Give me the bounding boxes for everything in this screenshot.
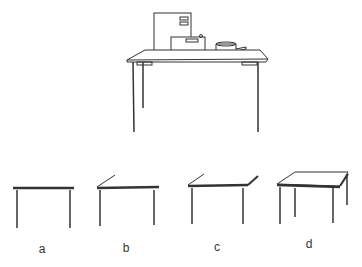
table-diagram <box>0 0 362 267</box>
variant-d-table <box>277 172 348 224</box>
variant-b-table <box>97 175 159 226</box>
label-d: d <box>306 237 313 251</box>
label-c: c <box>214 240 220 254</box>
label-a: a <box>39 242 46 256</box>
variant-c-table <box>188 174 258 224</box>
main-table-scene <box>127 13 268 132</box>
variant-a-table <box>13 188 74 228</box>
label-b: b <box>123 241 130 255</box>
